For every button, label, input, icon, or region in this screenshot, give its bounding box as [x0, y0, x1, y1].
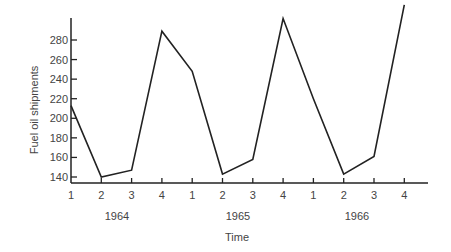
quarter-label: 1	[68, 189, 74, 201]
quarter-label: 2	[219, 189, 225, 201]
quarter-label: 4	[401, 189, 407, 201]
y-axis: 140160180200220240260280	[50, 18, 77, 183]
quarter-label: 3	[371, 189, 377, 201]
quarter-label: 3	[129, 189, 135, 201]
quarter-label: 2	[341, 189, 347, 201]
year-label: 1965	[226, 210, 250, 222]
fuel-oil-series-line	[71, 5, 404, 177]
quarter-label: 2	[98, 189, 104, 201]
y-tick-label: 280	[50, 34, 68, 46]
line-chart: 140160180200220240260280 123412341234196…	[0, 0, 451, 252]
quarter-label: 1	[189, 189, 195, 201]
x-axis-title: Time	[225, 231, 249, 243]
y-tick-label: 260	[50, 54, 68, 66]
y-tick-label: 220	[50, 93, 68, 105]
y-tick-label: 160	[50, 151, 68, 163]
quarter-label: 4	[280, 189, 286, 201]
year-label: 1966	[345, 210, 369, 222]
y-tick-label: 240	[50, 73, 68, 85]
quarter-label: 4	[159, 189, 165, 201]
x-axis: 123412341234196419651966	[68, 178, 428, 222]
y-tick-label: 200	[50, 112, 68, 124]
y-axis-title: Fuel oil shipments	[28, 65, 40, 154]
y-tick-label: 140	[50, 171, 68, 183]
year-label: 1964	[105, 210, 129, 222]
quarter-label: 1	[310, 189, 316, 201]
quarter-label: 3	[250, 189, 256, 201]
y-tick-label: 180	[50, 132, 68, 144]
